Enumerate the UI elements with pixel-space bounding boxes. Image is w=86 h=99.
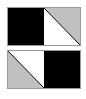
tile-row-bottom bbox=[7, 50, 81, 89]
tile-row-top bbox=[7, 7, 81, 46]
solid-fill bbox=[8, 8, 44, 45]
solid-black-square bbox=[44, 51, 80, 88]
solid-fill bbox=[44, 51, 80, 88]
solid-square-graphic bbox=[44, 51, 80, 88]
diagonal-split-square-top-right-shaded bbox=[44, 8, 80, 45]
solid-black-square bbox=[8, 8, 44, 45]
diagonal-square-graphic bbox=[44, 8, 80, 45]
diagonal-square-graphic bbox=[8, 51, 44, 88]
diagonal-split-square-bottom-left-shaded bbox=[8, 51, 44, 88]
solid-square-graphic bbox=[8, 8, 44, 45]
